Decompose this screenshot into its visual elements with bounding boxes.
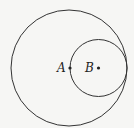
circle-diagram: A B (0, 0, 134, 128)
point-b-label: B (84, 61, 94, 75)
point-b-dot (97, 66, 100, 69)
point-a-label: A (56, 61, 66, 75)
point-a-dot (68, 66, 71, 69)
